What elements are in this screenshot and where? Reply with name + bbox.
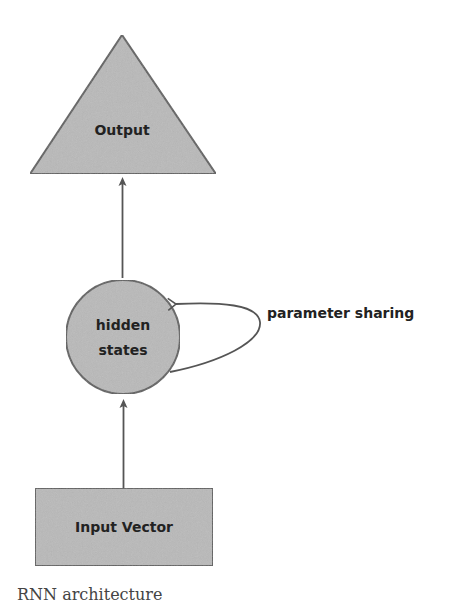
input-vector-node: Input Vector	[35, 488, 213, 566]
output-triangle	[30, 35, 216, 174]
self-loop-edge	[170, 303, 260, 372]
hidden-states-label-line2: states	[99, 342, 148, 358]
figure-caption: RNN architecture	[17, 585, 162, 602]
parameter-sharing-label: parameter sharing	[267, 305, 414, 321]
hidden-states-circle	[66, 280, 180, 394]
output-label: Output	[94, 122, 150, 138]
output-node: Output	[30, 35, 216, 174]
rnn-diagram: Output hidden states parameter sharing I…	[0, 0, 459, 602]
input-vector-label: Input Vector	[75, 519, 173, 535]
hidden-states-label-line1: hidden	[96, 317, 150, 333]
hidden-states-node: hidden states	[66, 280, 180, 394]
